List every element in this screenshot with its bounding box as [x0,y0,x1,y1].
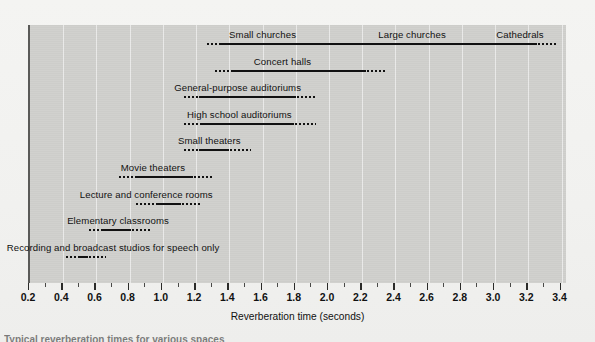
figure-caption: Typical reverberation times for various … [4,334,591,342]
x-axis-minor-tick [211,283,212,287]
range-dotted-extension-right [294,123,316,125]
x-axis-tick-label: 3.4 [552,291,567,303]
range-dotted-extension-right [181,203,201,205]
x-axis-tick-label: 2.6 [419,291,434,303]
x-axis-minor-tick [443,283,444,287]
range-bar-row: Lecture and conference rooms [30,189,566,219]
x-axis-minor-tick [310,283,311,287]
x-axis-tick [427,283,428,290]
x-axis-minor-tick [178,283,179,287]
range-bar-solid [201,123,294,125]
x-axis-tick-label: 3.2 [519,291,534,303]
x-axis-tick-label: 1.4 [220,291,235,303]
x-axis-tick-label: 1.8 [286,291,301,303]
range-dotted-extension-left [183,96,200,98]
range-bar-row: Recording and broadcast studios for spee… [30,242,566,272]
x-axis-minor-tick [510,283,511,287]
x-axis-tick-label: 2.0 [320,291,335,303]
range-dotted-extension-right [131,229,151,231]
x-axis-tick-label: 0.2 [21,291,36,303]
range-bar-solid [103,229,131,231]
range-dotted-extension-left [206,43,221,45]
range-bar-label: High school auditoriums [187,109,292,120]
range-bar-label: General-purpose auditoriums [174,82,301,93]
range-dotted-extension-right [229,149,251,151]
range-bar-label: Small theaters [178,135,241,146]
range-bar-label: Concert halls [254,56,311,67]
x-axis-tick [560,283,561,290]
x-axis-tick-label: 1.2 [187,291,202,303]
x-axis-tick [526,283,527,290]
x-axis-tick [493,283,494,290]
range-dotted-extension-left [118,176,135,178]
range-bar-label: Lecture and conference rooms [80,189,213,200]
range-bar-row: Small theaters [30,135,566,165]
range-bar-solid [233,70,366,72]
x-axis-tick [194,283,195,290]
x-axis: 0.20.40.60.81.01.21.41.61.82.02.22.42.62… [28,283,566,293]
range-dotted-extension-right [193,176,215,178]
range-bar-row: High school auditoriums [30,109,566,139]
range-bar-label: Cathedrals [496,29,543,40]
range-bar-label: Movie theaters [121,162,185,173]
range-dotted-extension-left [88,229,103,231]
x-axis-minor-tick [111,283,112,287]
x-axis-minor-tick [410,283,411,287]
x-axis-tick [261,283,262,290]
range-bar-solid [221,43,537,45]
range-bar-solid [80,256,88,258]
x-axis-tick-label: 1.6 [253,291,268,303]
x-axis-tick [360,283,361,290]
x-axis-tick-label: 3.0 [486,291,501,303]
x-axis-tick [393,283,394,290]
range-dotted-extension-right [296,96,318,98]
x-axis-tick-label: 2.8 [453,291,468,303]
x-axis-minor-tick [476,283,477,287]
x-axis-minor-tick [78,283,79,287]
x-axis-minor-tick [244,283,245,287]
x-axis-tick [94,283,95,290]
x-axis-minor-tick [344,283,345,287]
x-axis-tick-label: 0.6 [87,291,102,303]
range-bar-label: Small churches [229,29,296,40]
range-bar-solid [199,149,229,151]
x-axis-tick-label: 1.0 [154,291,169,303]
x-axis-tick-label: 0.8 [120,291,135,303]
range-dotted-extension-right [366,70,386,72]
range-bar-label: Elementary classrooms [67,215,169,226]
x-axis-minor-tick [543,283,544,287]
range-bar-label: Recording and broadcast studios for spee… [7,242,220,253]
range-dotted-extension-right [537,43,557,45]
range-bar-label: Large churches [378,29,446,40]
range-bar-solid [158,203,181,205]
range-dotted-extension-left [135,203,158,205]
x-axis-minor-tick [277,283,278,287]
chart-plot-area: Small churchesLarge churchesCathedralsCo… [28,25,566,283]
x-axis-tick [294,283,295,290]
x-axis-tick-label: 2.2 [353,291,368,303]
range-dotted-extension-right [88,256,106,258]
x-axis-title: Reverberation time (seconds) [0,311,595,322]
x-axis-tick-label: 2.4 [386,291,401,303]
range-dotted-extension-left [183,123,201,125]
x-axis-tick [227,283,228,290]
x-axis-tick [161,283,162,290]
x-axis-tick [61,283,62,290]
range-bar-solid [135,176,193,178]
x-axis-tick [28,283,29,290]
range-bar-row: General-purpose auditoriums [30,82,566,112]
range-bar-row: Movie theaters [30,162,566,192]
range-bar-solid [199,96,295,98]
x-axis-tick-label: 0.4 [54,291,69,303]
range-bar-row: Concert halls [30,56,566,86]
range-dotted-extension-left [214,70,232,72]
x-axis-minor-tick [144,283,145,287]
x-axis-minor-tick [45,283,46,287]
reverberation-time-figure: Small churchesLarge churchesCathedralsCo… [0,0,595,342]
range-dotted-extension-left [183,149,200,151]
range-bar-row: Elementary classrooms [30,215,566,245]
range-bar-row: Small churchesLarge churchesCathedrals [30,29,566,59]
x-axis-tick [128,283,129,290]
x-axis-tick [327,283,328,290]
range-dotted-extension-left [65,256,80,258]
